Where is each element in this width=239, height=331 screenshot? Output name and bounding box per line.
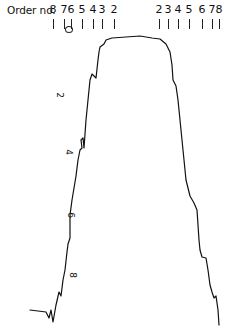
spectral-profile-figure: Order no. 87654322345678 2468 <box>0 0 239 331</box>
profile-curve <box>0 0 239 331</box>
